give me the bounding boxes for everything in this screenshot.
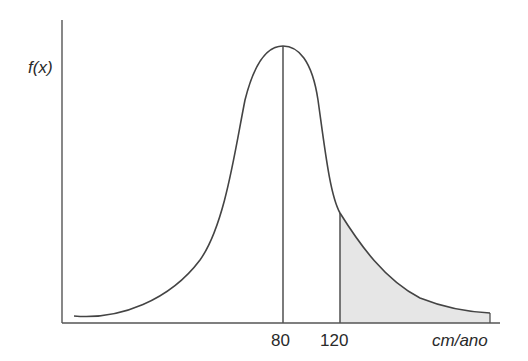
x-tick-120: 120 bbox=[320, 331, 348, 351]
density-curve bbox=[74, 46, 490, 317]
shaded-tail-area bbox=[340, 213, 490, 323]
x-tick-80: 80 bbox=[271, 331, 290, 351]
x-axis-label: cm/ano bbox=[432, 331, 488, 351]
density-chart bbox=[0, 0, 528, 361]
y-axis-label: f(x) bbox=[28, 58, 53, 78]
